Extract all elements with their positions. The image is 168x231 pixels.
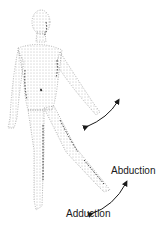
figure-diagram: [0, 0, 168, 231]
abduction-label: Abduction: [111, 166, 155, 176]
neck: [36, 32, 46, 42]
left-arm: [8, 50, 24, 128]
head: [32, 10, 50, 34]
adduction-label: Adduction: [66, 209, 110, 219]
human-figure: [8, 10, 110, 210]
left-leg: [28, 110, 44, 210]
right-arm: [56, 52, 100, 115]
